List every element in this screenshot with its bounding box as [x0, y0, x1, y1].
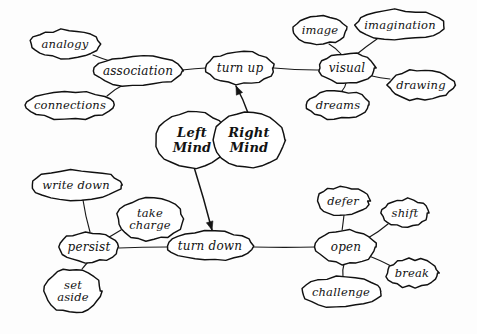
- node-outline-write-down: [32, 170, 122, 201]
- edge-write-down-to-persist: [83, 200, 90, 232]
- node-outline-imagination: [355, 9, 444, 40]
- node-challenge[interactable]: [302, 276, 381, 307]
- edge-association-to-turn-up: [182, 68, 206, 70]
- node-defer[interactable]: [318, 186, 371, 215]
- node-outline-open: [315, 229, 377, 265]
- node-outline-connections: [25, 91, 114, 119]
- arrowhead-turn-down: [206, 221, 213, 230]
- node-image[interactable]: [293, 16, 347, 45]
- node-outline-persist: [59, 232, 119, 263]
- node-take-charge[interactable]: [117, 198, 184, 242]
- node-drawing[interactable]: [387, 70, 456, 101]
- node-turn-down[interactable]: [168, 230, 254, 260]
- node-write-down[interactable]: [32, 170, 122, 201]
- node-outline-challenge: [302, 276, 381, 307]
- node-outline-take-charge: [117, 198, 184, 242]
- arrowhead-turn-up: [236, 86, 243, 95]
- edge-drawing-to-visual: [372, 76, 390, 79]
- node-set-aside[interactable]: [44, 269, 102, 312]
- node-visual[interactable]: [319, 53, 376, 83]
- edge-imagination-to-visual: [357, 39, 377, 54]
- edge-left-mind-to-turn-down: [194, 167, 212, 230]
- node-association[interactable]: [93, 56, 183, 87]
- node-break[interactable]: [386, 258, 439, 288]
- node-outline-dreams: [306, 91, 369, 120]
- mindmap-svg: [0, 0, 477, 334]
- node-outline-break: [386, 258, 439, 288]
- node-open[interactable]: [315, 229, 377, 265]
- node-outline-right-mind: [213, 112, 285, 168]
- edge-image-to-visual: [329, 44, 341, 54]
- node-shift[interactable]: [381, 198, 429, 227]
- node-outline-set-aside: [44, 269, 102, 312]
- node-turn-up[interactable]: [206, 51, 275, 85]
- edge-break-to-open: [369, 256, 391, 266]
- node-outline-turn-down: [168, 230, 254, 260]
- node-outline-image: [293, 16, 347, 45]
- edge-turn-up-to-visual: [274, 68, 319, 70]
- node-outline-association: [93, 56, 183, 87]
- node-outline-drawing: [387, 70, 456, 101]
- node-connections[interactable]: [25, 91, 114, 119]
- node-outline-analogy: [30, 29, 101, 59]
- node-outline-defer: [318, 186, 371, 215]
- node-persist[interactable]: [59, 232, 119, 263]
- node-outline-turn-up: [206, 51, 275, 85]
- edge-shift-to-open: [368, 224, 388, 238]
- edge-challenge-to-open: [343, 264, 344, 277]
- node-right-mind[interactable]: [213, 112, 285, 168]
- mindmap-canvas: Left MindRight Mindturn upturn downassoc…: [0, 0, 477, 334]
- node-layer: [25, 9, 455, 313]
- node-dreams[interactable]: [306, 91, 369, 120]
- node-imagination[interactable]: [355, 9, 444, 40]
- node-outline-shift: [381, 198, 429, 227]
- node-outline-visual: [319, 53, 376, 83]
- node-analogy[interactable]: [30, 29, 101, 59]
- edge-dreams-to-visual: [342, 83, 346, 91]
- edge-persist-to-turn-down: [119, 247, 167, 248]
- edge-defer-to-open: [342, 215, 344, 231]
